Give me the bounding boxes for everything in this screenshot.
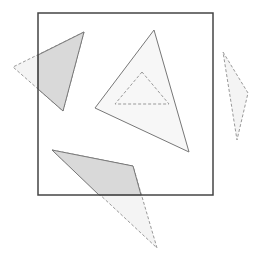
center-triangle [95, 30, 189, 152]
clipping-diagram [0, 0, 261, 262]
left-triangle-clipped [38, 32, 84, 111]
inside-portions [38, 30, 189, 195]
bottom-triangle-clipped [52, 150, 141, 195]
diagram-svg [0, 0, 261, 262]
right-triangle [223, 52, 248, 140]
